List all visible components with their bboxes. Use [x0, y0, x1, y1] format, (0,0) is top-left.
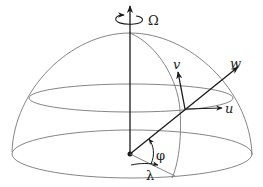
lambda-arc-icon: [131, 164, 158, 166]
v-label: v: [173, 57, 181, 72]
rotation-arrow-icon: [116, 15, 143, 24]
w-label: w: [230, 56, 241, 71]
w-vector: [130, 67, 238, 154]
omega-label: Ω: [148, 13, 159, 28]
latitude-circle: [29, 84, 233, 112]
sphere-coordinate-diagram: Ω w u v φ λ: [0, 0, 263, 187]
u-vector: [185, 108, 222, 109]
phi-label: φ: [156, 148, 165, 163]
phi-arc-icon: [149, 139, 153, 164]
u-label: u: [225, 101, 233, 116]
lambda-label: λ: [146, 168, 154, 183]
